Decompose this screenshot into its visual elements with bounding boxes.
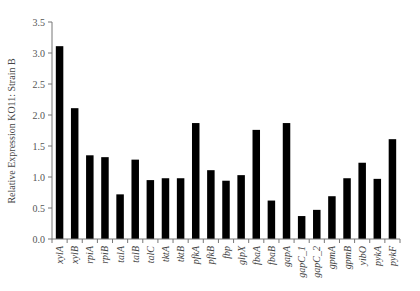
bar-fbaB: [268, 201, 276, 239]
bar-yibO: [358, 163, 366, 239]
bar-tktB: [177, 178, 185, 239]
x-category-label: xylA: [54, 245, 65, 265]
bar-pfkA: [192, 123, 200, 239]
y-tick-label: 2.5: [33, 79, 46, 90]
x-category-label: gpmB: [342, 246, 353, 269]
x-category-label: rpiB: [99, 246, 110, 264]
bar-pykF: [389, 139, 397, 239]
bar-pfkB: [207, 170, 215, 239]
x-category-label: pykA: [372, 245, 383, 267]
bar-fbp: [222, 181, 230, 239]
x-category-label: fbaB: [266, 246, 277, 265]
bar-gpmA: [328, 196, 336, 239]
bar-gapA: [283, 123, 291, 239]
x-category-label: gapA: [281, 245, 292, 267]
x-category-label: yibO: [357, 246, 368, 266]
x-category-label: tktA: [160, 245, 171, 262]
bar-pykA: [374, 179, 382, 239]
bar-tktA: [162, 178, 170, 239]
x-axis: xylAxylBrpiArpiBtalAtalBtalCtktAtktBpfkA…: [52, 239, 400, 278]
y-axis: 0.00.51.01.52.02.53.03.5: [33, 17, 53, 245]
x-category-label: pfkB: [205, 246, 216, 265]
x-category-label: talB: [130, 246, 141, 263]
bar-gapC_1: [298, 216, 306, 239]
x-category-label: pfkA: [190, 245, 201, 265]
y-tick-label: 3.5: [33, 17, 46, 28]
bar-rpiB: [101, 157, 109, 239]
bar-glpX: [237, 175, 245, 239]
bar-fbaA: [253, 130, 261, 239]
x-category-label: talC: [145, 246, 156, 264]
bar-talC: [147, 180, 155, 239]
bar-xylB: [71, 108, 79, 239]
bar-chart: 0.00.51.01.52.02.53.03.5 xylAxylBrpiArpi…: [0, 0, 420, 291]
x-category-label: xylB: [69, 246, 80, 265]
bar-rpiA: [86, 155, 94, 239]
bar-talA: [116, 194, 124, 239]
x-category-label: rpiA: [84, 245, 95, 264]
x-category-label: fbaA: [251, 245, 262, 265]
bar-talB: [131, 160, 139, 239]
y-tick-label: 1.0: [33, 172, 46, 183]
y-tick-label: 2.0: [33, 110, 46, 121]
x-category-label: gapC_1: [296, 246, 307, 278]
x-category-label: gpmA: [326, 245, 337, 269]
y-tick-label: 0.5: [33, 203, 46, 214]
y-tick-label: 0.0: [33, 234, 46, 245]
x-category-label: talA: [115, 245, 126, 263]
y-tick-label: 1.5: [33, 141, 46, 152]
y-axis-title: Relative Expression KO11: Strain B: [6, 58, 17, 203]
bars: [56, 46, 396, 239]
x-category-label: fbp: [221, 246, 232, 259]
x-category-label: tktB: [175, 246, 186, 262]
x-category-label: pykF: [387, 245, 398, 267]
x-category-label: glpX: [236, 245, 247, 265]
bar-gapC_2: [313, 210, 321, 239]
y-tick-label: 3.0: [33, 48, 46, 59]
bar-gpmB: [343, 178, 351, 239]
bar-xylA: [56, 46, 64, 239]
x-category-label: gapC_2: [311, 246, 322, 278]
